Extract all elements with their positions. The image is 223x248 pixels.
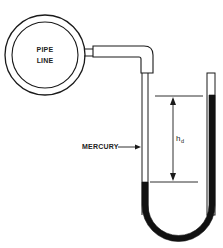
height-label: h bbox=[176, 134, 180, 143]
arrow-right-icon bbox=[135, 145, 141, 150]
mercury-column bbox=[142, 95, 215, 242]
pipe-line-label-2: LINE bbox=[37, 57, 54, 64]
pipe-line-label-1: PIPE bbox=[37, 46, 54, 53]
arrow-up-icon bbox=[170, 97, 176, 105]
arrow-down-icon bbox=[170, 173, 176, 181]
manometer-diagram: PIPE LINE h d MERCURY bbox=[0, 0, 223, 248]
mercury-label: MERCURY bbox=[82, 143, 119, 150]
mercury-pointer-arrow bbox=[118, 145, 141, 150]
height-label-subscript: d bbox=[181, 138, 184, 144]
l-connector-pipe bbox=[93, 46, 153, 73]
pipe-line-cross-section bbox=[5, 15, 85, 95]
